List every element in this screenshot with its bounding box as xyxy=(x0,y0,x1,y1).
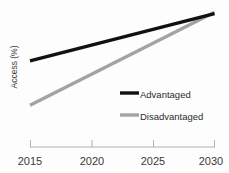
legend-label-disadvantaged: Disadvantaged xyxy=(140,111,203,122)
x-tick-label-2015: 2015 xyxy=(13,155,47,167)
series-line-advantaged xyxy=(30,14,215,61)
legend-label-advantaged: Advantaged xyxy=(140,89,191,100)
x-tick-label-2020: 2020 xyxy=(75,155,109,167)
x-tick-label-2025: 2025 xyxy=(136,155,170,167)
plot-area xyxy=(0,0,229,173)
line-chart: Access (%) 2015 2020 2025 2030 Advantage… xyxy=(0,0,229,173)
x-tick-label-2030: 2030 xyxy=(194,155,228,167)
y-axis-label: Access (%) xyxy=(9,37,19,97)
